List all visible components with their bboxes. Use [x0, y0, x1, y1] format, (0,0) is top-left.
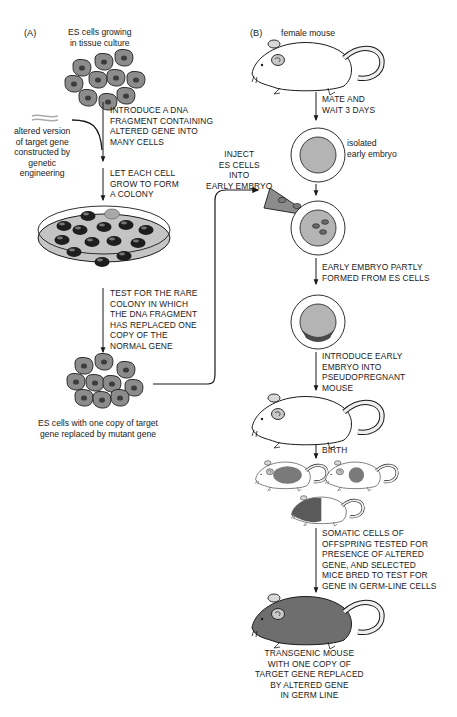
female-mouse	[252, 40, 382, 95]
arrow-connector-a-to-b	[153, 190, 258, 384]
es-cells-mutant-caption: ES cells with one copy of target gene re…	[38, 418, 158, 439]
es-cells-culture	[65, 50, 145, 111]
petri-dish	[38, 206, 170, 267]
es-cells-culture-caption: ES cells growing in tissue culture	[68, 27, 132, 48]
step-introduce-dna: INTRODUCE A DNA FRAGMENT CONTAINING ALTE…	[110, 105, 213, 147]
step-test-colony: TEST FOR THE RARE COLONY IN WHICH THE DN…	[110, 288, 197, 352]
chimeric-embryo	[291, 295, 345, 349]
transgenic-mouse	[252, 594, 382, 649]
arrow-dna-merge	[72, 120, 102, 150]
step-introduce-pseudopregnant: INTRODUCE EARLY EMBRYO INTO PSEUDOPREGNA…	[322, 351, 405, 393]
panel-a-label: (A)	[24, 28, 36, 39]
injected-embryo	[291, 201, 345, 255]
chimeric-offspring	[256, 461, 398, 526]
step-embryo-partly-es: EARLY EMBRYO PARTLY FORMED FROM ES CELLS	[322, 262, 430, 283]
step-birth: BIRTH	[322, 445, 347, 456]
step-grow-colony: LET EACH CELL GROW TO FORM A COLONY	[110, 168, 179, 200]
transgenic-mouse-caption: TRANSGENIC MOUSE WITH ONE COPY OF TARGET…	[255, 648, 364, 701]
es-cells-mutant	[67, 354, 143, 409]
isolated-early-embryo	[291, 128, 345, 182]
step-inject-es-cells: INJECT ES CELLS INTO EARLY EMBRYO	[206, 149, 272, 191]
step-mate-wait: MATE AND WAIT 3 DAYS	[322, 94, 375, 115]
altered-gene-caption: altered version of target gene construct…	[14, 126, 70, 179]
female-mouse-caption: female mouse	[281, 28, 335, 39]
isolated-embryo-caption: isolated early embryo	[347, 138, 397, 159]
panel-b-label: (B)	[250, 28, 262, 39]
pseudopregnant-mouse	[252, 394, 382, 449]
step-test-offspring: SOMATIC CELLS OF OFFSPRING TESTED FOR PR…	[322, 528, 436, 592]
dna-fragment-icon	[32, 115, 58, 121]
